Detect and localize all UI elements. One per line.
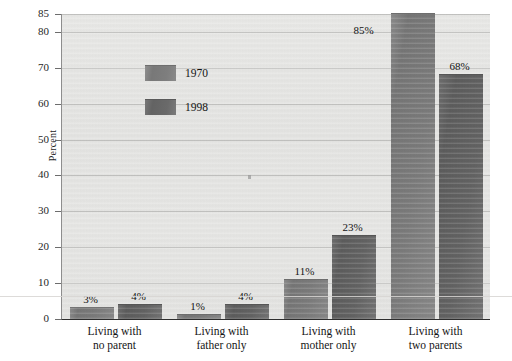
y-tick-label: 80 <box>19 25 49 37</box>
bar-1970-2 <box>284 279 328 319</box>
y-tick-label: 50 <box>19 133 49 145</box>
x-axis-label-line: two parents <box>382 339 489 353</box>
y-tick-label: 85 <box>19 7 49 19</box>
bar-value-label: 68% <box>438 60 482 72</box>
y-tick-label: 70 <box>19 61 49 73</box>
y-tick-label: 0 <box>19 312 49 324</box>
x-axis-label-line: Living with <box>382 325 489 339</box>
bar-value-label: 11% <box>283 265 327 277</box>
bar-1970-3 <box>391 13 435 319</box>
x-axis-label-line: Living with <box>275 325 382 339</box>
plot-area: 1970 1998 <box>61 14 490 320</box>
page-rule-artifact <box>0 296 512 297</box>
y-tick-label: 20 <box>19 240 49 252</box>
scan-speck-artifact <box>248 175 251 179</box>
x-axis-label-line: no parent <box>61 339 168 353</box>
x-axis-label-0: Living withno parent <box>61 325 168 352</box>
legend-item-1970: 1970 <box>145 62 208 84</box>
y-tick-label: 30 <box>19 204 49 216</box>
x-axis-label-line: father only <box>168 339 275 353</box>
x-axis-label-1: Living withfather only <box>168 325 275 352</box>
bar-1998-1 <box>225 304 269 319</box>
bar-1998-2 <box>332 235 376 319</box>
y-tick-label: 10 <box>19 276 49 288</box>
legend-label-1970: 1970 <box>185 67 208 79</box>
bar-value-label: 23% <box>331 221 375 233</box>
legend: 1970 1998 <box>145 62 208 130</box>
x-axis-label-3: Living withtwo parents <box>382 325 489 352</box>
bar-1970-0 <box>70 307 114 319</box>
y-tick-label: 40 <box>19 168 49 180</box>
bar-1998-3 <box>439 74 483 319</box>
bar-value-label: 1% <box>176 300 220 312</box>
legend-swatch-1998-icon <box>145 99 176 115</box>
bar-chart: Percent 0102030405060708085 1970 1998 3%… <box>0 0 512 361</box>
legend-item-1998: 1998 <box>145 96 208 118</box>
x-axis-label-line: Living with <box>168 325 275 339</box>
y-tick-label: 60 <box>19 97 49 109</box>
x-axis-label-line: mother only <box>275 339 382 353</box>
bar-1998-0 <box>118 304 162 319</box>
x-axis-label-2: Living withmother only <box>275 325 382 352</box>
legend-swatch-1970-icon <box>145 65 176 81</box>
bar-value-label: 85% <box>342 24 386 36</box>
x-axis-label-line: Living with <box>61 325 168 339</box>
bar-1970-1 <box>177 314 221 319</box>
legend-label-1998: 1998 <box>185 101 208 113</box>
